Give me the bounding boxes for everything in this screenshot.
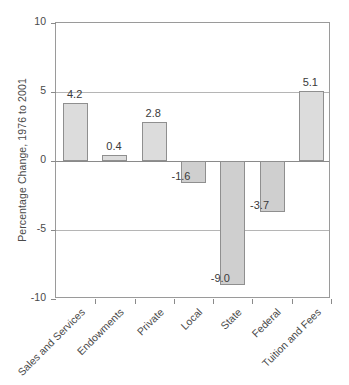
bar-value-label: 4.2 — [55, 88, 95, 100]
bar-chart: Percentage Change, 1976 to 2001 1050-5-1… — [0, 0, 349, 385]
y-axis-tick-mark — [51, 230, 56, 231]
y-axis-tick-label: 0 — [6, 154, 46, 164]
y-axis-tick-mark — [51, 299, 56, 300]
y-axis-tick-label: 10 — [6, 16, 46, 26]
y-axis-tick-label-wrap: 5 — [0, 85, 46, 95]
plot-area — [55, 22, 330, 298]
x-axis-category-label: Private — [134, 306, 166, 338]
y-axis-tick-label-wrap: -10 — [0, 292, 46, 302]
bar — [142, 122, 167, 161]
y-axis-tick-mark — [51, 23, 56, 24]
bar — [299, 91, 324, 161]
bar-value-label: 5.1 — [290, 76, 330, 88]
x-axis-category-label: Local — [179, 306, 205, 332]
bar — [220, 161, 245, 285]
bar — [102, 155, 127, 161]
bar-value-label: 2.8 — [133, 107, 173, 119]
y-axis-tick-label: -5 — [6, 223, 46, 233]
x-axis-tick-mark — [174, 299, 175, 304]
x-axis-category-label: State — [218, 306, 244, 332]
y-axis-tick-label-wrap: 0 — [0, 154, 46, 164]
y-axis-tick-label-wrap: -5 — [0, 223, 46, 233]
bar — [63, 103, 88, 161]
y-axis-tick-label-wrap: 10 — [0, 16, 46, 26]
gridline — [56, 92, 329, 93]
x-axis-category-label: Sales and Services — [15, 306, 87, 378]
y-axis-tick-label: -10 — [6, 292, 46, 302]
x-axis-tick-mark — [292, 299, 293, 304]
bar-value-label: -9.0 — [190, 272, 230, 284]
x-axis-tick-mark — [252, 299, 253, 304]
x-axis-tick-mark — [95, 299, 96, 304]
x-axis-category-label: Federal — [250, 306, 284, 340]
y-axis-tick-mark — [51, 161, 56, 162]
y-axis-tick-label: 5 — [6, 85, 46, 95]
x-axis-tick-mark — [213, 299, 214, 304]
x-axis-tick-mark — [331, 299, 332, 304]
gridline — [56, 230, 329, 231]
x-axis-tick-mark — [135, 299, 136, 304]
bar-value-label: 0.4 — [94, 140, 134, 152]
bar-value-label: -1.6 — [151, 170, 191, 182]
bar-value-label: -3.7 — [229, 199, 269, 211]
